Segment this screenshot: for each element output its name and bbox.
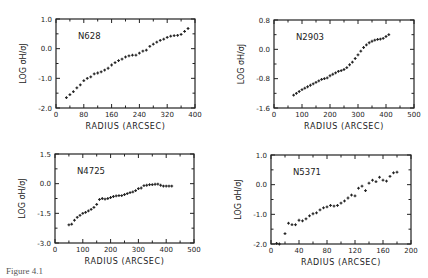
- data-point: [73, 219, 76, 222]
- x-tick-label: 500: [407, 111, 420, 119]
- data-point: [135, 54, 138, 57]
- data-point: [362, 46, 365, 49]
- x-tick-label: 0: [54, 111, 58, 119]
- data-point: [107, 67, 110, 70]
- data-point: [301, 219, 304, 222]
- data-point: [315, 211, 318, 214]
- y-tick-label: 1.0: [256, 152, 267, 160]
- data-point: [298, 90, 301, 93]
- data-point: [368, 182, 371, 185]
- data-point: [180, 33, 183, 36]
- data-point: [162, 38, 165, 41]
- data-point: [278, 243, 281, 246]
- x-tick-label: 0: [53, 246, 57, 254]
- data-point: [336, 204, 339, 207]
- data-point: [117, 59, 120, 62]
- data-point: [323, 77, 326, 80]
- data-point: [329, 204, 332, 207]
- y-tick-label: 0.0: [259, 46, 270, 54]
- data-point: [348, 63, 351, 66]
- y-axis-label: LOG σH/σJ: [18, 178, 27, 218]
- data-point: [385, 35, 388, 38]
- data-point: [115, 195, 118, 198]
- data-point: [129, 191, 132, 194]
- data-point: [292, 94, 295, 97]
- data-point: [312, 82, 315, 85]
- y-tick-label: -1.5: [37, 210, 51, 218]
- data-point: [168, 185, 171, 188]
- data-point: [140, 187, 143, 190]
- data-point: [93, 206, 96, 209]
- data-point: [308, 214, 311, 217]
- data-point: [359, 50, 362, 53]
- data-point: [120, 194, 123, 197]
- data-point: [306, 85, 309, 88]
- data-point: [95, 203, 98, 206]
- data-point: [106, 197, 109, 200]
- data-point: [319, 208, 322, 211]
- data-point: [134, 189, 137, 192]
- panel-n2903: 01002003004005000.80.0-0.8-1.6N2903RADIU…: [237, 17, 421, 132]
- data-point: [315, 81, 318, 84]
- x-axis-label: RADIUS (ARCSEC): [304, 122, 384, 131]
- x-tick-label: 100: [295, 111, 308, 119]
- data-point: [159, 39, 162, 42]
- data-point: [76, 216, 79, 219]
- data-point: [143, 184, 146, 187]
- y-tick-label: 0.0: [41, 45, 52, 53]
- y-tick-label: 1.0: [41, 16, 52, 24]
- data-point: [371, 179, 374, 182]
- data-point: [103, 69, 106, 72]
- data-point: [155, 41, 158, 44]
- data-point: [126, 192, 129, 195]
- data-point: [361, 185, 364, 188]
- data-point: [98, 198, 101, 201]
- data-point: [154, 183, 157, 186]
- x-tick-label: 160: [105, 111, 118, 119]
- data-point: [357, 187, 360, 190]
- data-point: [84, 211, 87, 214]
- panel-n628: 0801602403204001.00.0-1.0-2.0N628RADIUS …: [19, 16, 202, 132]
- data-point: [100, 70, 103, 73]
- data-point: [156, 183, 159, 186]
- x-tick-label: 300: [132, 246, 145, 254]
- data-point: [137, 187, 140, 190]
- panel-n5371: 040801201602001.00.0-1.0-2.0N5371RADIUS …: [234, 152, 418, 268]
- data-point: [81, 212, 84, 215]
- data-point: [294, 223, 297, 226]
- data-point: [145, 184, 148, 187]
- x-tick-label: 0: [272, 111, 276, 119]
- data-point: [375, 180, 378, 183]
- x-tick-label: 320: [161, 111, 174, 119]
- data-point: [317, 79, 320, 82]
- data-point: [378, 176, 381, 179]
- data-point: [112, 195, 115, 198]
- galaxy-label: N628: [78, 31, 101, 41]
- data-point: [331, 73, 334, 76]
- data-point: [345, 66, 348, 69]
- data-point: [305, 217, 308, 220]
- data-point: [110, 64, 113, 67]
- x-tick-label: 120: [348, 247, 361, 255]
- data-point: [118, 194, 121, 197]
- data-point: [309, 84, 312, 87]
- data-point: [376, 38, 379, 41]
- data-point: [368, 41, 371, 44]
- plot-frame: [56, 19, 195, 108]
- data-point: [131, 191, 134, 194]
- panel-n4725: 01002003004005001.50.0-1.5-3.0N4725RADIU…: [18, 151, 201, 267]
- data-point: [138, 52, 141, 55]
- y-axis-label: LOG σH/σJ: [234, 179, 243, 219]
- data-point: [166, 36, 169, 39]
- data-point: [334, 71, 337, 74]
- data-point: [333, 205, 336, 208]
- x-tick-label: 400: [379, 111, 392, 119]
- y-axis-label: LOG σH/σJ: [237, 44, 246, 84]
- y-tick-label: -2.0: [38, 105, 52, 113]
- x-tick-label: 400: [160, 246, 173, 254]
- x-tick-label: 100: [76, 246, 89, 254]
- data-point: [287, 222, 290, 225]
- data-point: [151, 183, 154, 186]
- data-point: [169, 35, 172, 38]
- data-point: [373, 39, 376, 42]
